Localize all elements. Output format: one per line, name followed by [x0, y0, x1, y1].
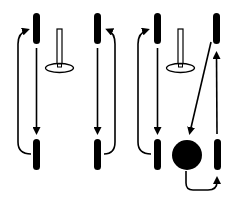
player-marker [213, 13, 220, 44]
player-marker [33, 13, 40, 44]
loop-arrow [104, 30, 115, 154]
player-marker [94, 13, 101, 44]
ball-icon [172, 140, 202, 170]
loop-arrow [138, 30, 151, 154]
cone-icon [46, 29, 74, 73]
diagram-canvas: Drill movement pattern diagram [0, 0, 233, 204]
pass-arrow-diagonal [190, 42, 211, 132]
player-marker [94, 139, 101, 170]
cone-icon [167, 29, 195, 73]
player-marker [214, 139, 221, 170]
dribble-arrow [186, 171, 217, 190]
movement-arrow-up [217, 54, 218, 134]
panel-3 [138, 13, 221, 190]
player-marker [33, 139, 40, 170]
player-marker [154, 13, 161, 44]
player-marker [154, 139, 161, 170]
loop-arrow [18, 30, 31, 154]
panel-1 [18, 13, 74, 170]
panel-2 [94, 13, 115, 170]
